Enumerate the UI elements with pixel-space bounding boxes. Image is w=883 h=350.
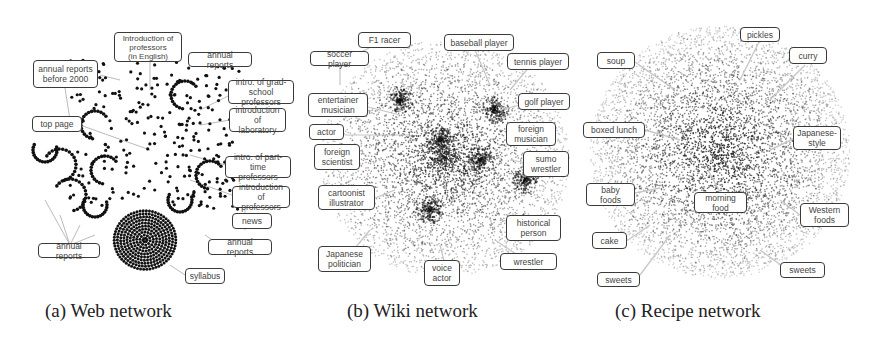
label-tennis-player: tennis player xyxy=(507,53,569,70)
label-foreign-scientist: foreign scientist xyxy=(314,144,360,170)
label-soup: soup xyxy=(597,52,635,69)
label-intro-part-time-professors: intro. of part- time professors xyxy=(225,156,291,178)
label-baby-foods: baby foods xyxy=(586,183,635,206)
label-intro-professors-english: Introduction of professors (in English) xyxy=(114,32,182,62)
label-sumo-wrestler: sumo wrestler xyxy=(523,151,569,177)
label-sweets-right: sweets xyxy=(780,262,825,278)
label-news: news xyxy=(232,213,272,229)
panel-web-network: Introduction of professors (in English) … xyxy=(0,0,300,300)
label-curry: curry xyxy=(789,47,827,64)
label-syllabus: syllabus xyxy=(185,268,225,284)
label-annual-reports-before-2000: annual reports before 2000 xyxy=(33,60,98,88)
label-top-page: top page xyxy=(32,116,82,132)
label-annual-reports-left: annual reports xyxy=(38,243,100,258)
label-historical-person: historical person xyxy=(506,215,561,241)
caption-web-network: (a) Web network xyxy=(45,300,172,322)
label-baseball-player: baseball player xyxy=(444,34,514,51)
label-soccer-player: soccer player xyxy=(310,51,369,66)
label-western-foods: Western foods xyxy=(800,203,849,227)
label-cake: cake xyxy=(592,232,627,249)
panel-wiki-network: F1 racer baseball player soccer player t… xyxy=(300,0,590,300)
label-sweets-left: sweets xyxy=(597,272,640,287)
caption-recipe-network: (c) Recipe network xyxy=(615,300,761,322)
label-actor: actor xyxy=(309,124,344,140)
label-voice-actor: voice actor xyxy=(424,260,460,286)
label-japanese-politician: Japanese politician xyxy=(318,246,371,272)
recipe-network-graph xyxy=(580,0,883,300)
label-foreign-musician: foreign musician xyxy=(506,122,556,146)
label-pickles: pickles xyxy=(740,27,780,42)
label-golf-player: golf player xyxy=(518,93,570,110)
label-annual-reports-top: annual reports xyxy=(188,52,252,67)
label-annual-reports-right: annual reports xyxy=(208,239,272,255)
label-entertainer-musician: entertainer musician xyxy=(308,93,368,117)
label-introduction-laboratory: introduction of laboratory xyxy=(229,108,286,132)
caption-wiki-network: (b) Wiki network xyxy=(347,300,478,322)
panel-recipe-network: pickles soup curry boxed lunch Japanese-… xyxy=(580,0,883,300)
label-japanese-style: Japanese- style xyxy=(793,126,841,150)
label-introduction-professors: introduction of professors xyxy=(232,186,290,208)
label-boxed-lunch: boxed lunch xyxy=(583,122,645,138)
label-f1-racer: F1 racer xyxy=(358,32,411,48)
label-morning-food: morning food xyxy=(694,192,747,213)
label-intro-grad-school-professors: intro. of grad- school professors xyxy=(228,80,294,104)
label-cartoonist-illustrator: cartoonist illustrator xyxy=(318,185,375,210)
label-wrestler: wrestler xyxy=(500,253,557,270)
